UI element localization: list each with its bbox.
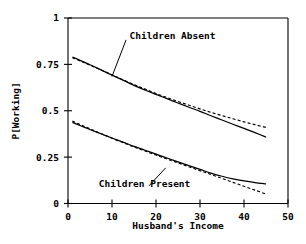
chart-root: 00.250.50.751 01020304050 Children Absen… (0, 0, 306, 244)
x-tick-label: 40 (238, 211, 250, 222)
y-tick-label: 1 (53, 12, 59, 23)
annotation-group: Children AbsentChildren Present (99, 30, 216, 189)
series-curve (72, 122, 266, 183)
annotation-label: Children Present (99, 178, 191, 189)
y-tick-label: 0.5 (42, 105, 59, 116)
x-tick-label: 10 (106, 211, 118, 222)
data-series-group (72, 57, 266, 194)
plot-frame (68, 18, 288, 204)
y-tick-label: 0.75 (36, 59, 59, 70)
series-curve (72, 57, 266, 137)
x-axis-title: Husband's Income (132, 220, 224, 231)
annotation-leader-line (112, 40, 126, 77)
series-curve (72, 58, 266, 128)
x-tick-label: 50 (282, 211, 294, 222)
y-axis-tick-labels: 00.250.50.751 (36, 12, 59, 209)
x-tick-label: 0 (65, 211, 71, 222)
y-tick-label: 0 (53, 198, 59, 209)
annotation-label: Children Absent (130, 30, 216, 41)
y-tick-label: 0.25 (36, 152, 59, 163)
probability-line-chart: 00.250.50.751 01020304050 Children Absen… (0, 0, 306, 244)
y-axis-title: P[Working] (10, 82, 21, 139)
